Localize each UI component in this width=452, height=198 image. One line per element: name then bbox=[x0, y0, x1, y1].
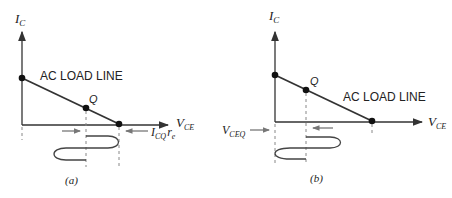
x-axis-label: VCE bbox=[428, 114, 446, 131]
load-line-diagram: IC VCE AC LOAD LINE Q ICQre (a) IC VCE A… bbox=[0, 0, 452, 198]
icq-re-label: ICQre bbox=[150, 125, 176, 141]
y-axis-label: IC bbox=[14, 11, 26, 28]
vceq-label: VCEQ bbox=[222, 123, 246, 139]
signal-waveform bbox=[275, 137, 341, 159]
caption-a: (a) bbox=[65, 174, 78, 187]
x-axis-label: VCE bbox=[176, 115, 194, 132]
panel-a: IC VCE AC LOAD LINE Q ICQre (a) bbox=[14, 11, 194, 187]
q-label: Q bbox=[89, 93, 98, 105]
caption-b: (b) bbox=[310, 172, 323, 185]
load-line-label: AC LOAD LINE bbox=[40, 69, 123, 83]
ac-load-line bbox=[22, 78, 119, 124]
load-line-label: AC LOAD LINE bbox=[343, 90, 426, 104]
intercept-point-y bbox=[272, 72, 279, 79]
intercept-point-x bbox=[369, 118, 376, 125]
intercept-point-y bbox=[19, 75, 26, 82]
q-label: Q bbox=[310, 75, 319, 87]
q-point bbox=[83, 105, 90, 112]
panel-b: IC VCE AC LOAD LINE Q VCEQ (b) bbox=[222, 8, 446, 185]
y-axis-label: IC bbox=[268, 8, 280, 25]
signal-waveform bbox=[54, 136, 119, 160]
q-point bbox=[303, 87, 310, 94]
intercept-point-x bbox=[116, 121, 123, 128]
